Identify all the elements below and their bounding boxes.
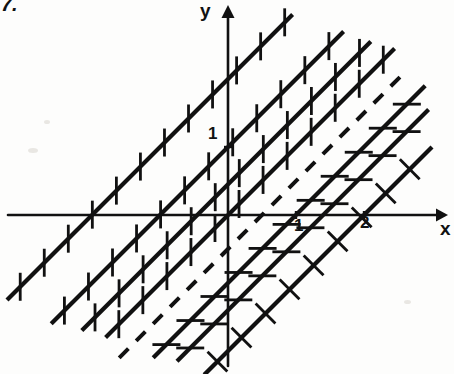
x-axis-tick-label-2: 2 [360,214,369,231]
line-1 [7,14,293,300]
line-group-1 [7,8,293,300]
y-axis-label: y [200,1,211,20]
figure-container: 7. y x 1 1 2 [0,0,454,374]
y-axis-arrowhead [222,5,235,18]
line-group-4 [106,46,395,338]
line-4 [106,48,395,337]
x-axis-tick-label-1: 1 [294,217,303,234]
figure-number-label: 7. [1,0,18,14]
line-6 [153,86,425,358]
y-axis-tick-label-1: 1 [208,125,217,142]
x-axis-label: x [440,219,451,238]
coordinate-plot [0,0,454,374]
